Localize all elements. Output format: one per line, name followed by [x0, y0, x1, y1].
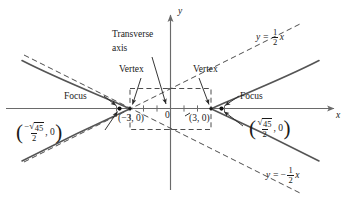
transverse-axis-label-line2: axis [112, 43, 127, 54]
leader-vertex-left [133, 78, 142, 105]
vertex-right-label: Vertex [193, 64, 218, 75]
asymptote-lower-fraction: 1 2 [287, 166, 293, 184]
focus-left-point [117, 107, 121, 111]
focus-left-open-paren: ( [16, 124, 23, 141]
asymptote-upper-variable: x [280, 32, 284, 43]
vertex-left-label: Vertex [119, 64, 144, 75]
hyperbola-left-branch [22, 61, 130, 162]
focus-right-point [219, 107, 223, 111]
focus-left-denominator: 2 [31, 133, 37, 143]
asymptote-lower-variable: x [295, 170, 299, 181]
focus-left-second-coordinate: , 0 [45, 127, 55, 138]
origin-label: 0 [165, 110, 170, 121]
asymptote-lower-equation: y = − 1 2 x [266, 166, 299, 184]
focus-right-open-paren: ( [249, 120, 256, 137]
leader-focus-left [104, 96, 116, 106]
axis-lines [6, 15, 334, 190]
focus-left-fraction: −√45 2 [24, 122, 45, 143]
x-axis-label: x [336, 110, 340, 121]
asymptote-lower-numerator: 1 [287, 166, 293, 175]
focus-right-numerator: √45 [257, 118, 273, 129]
leader-vertex-right [199, 78, 209, 105]
focus-left-close-paren: ) [55, 124, 62, 141]
focus-left-numerator: −√45 [24, 122, 45, 133]
focus-right-fraction: √45 2 [257, 118, 273, 139]
vertex-left-point [128, 107, 131, 110]
asymptote-lower-lhs: y = [266, 170, 279, 181]
asymptote-lower-denominator: 2 [287, 175, 293, 185]
asymptote-lower-sign: − [281, 170, 286, 181]
leader-focus-right [225, 96, 239, 106]
asymptote-upper-denominator: 2 [272, 37, 278, 47]
focus-right-coordinate: ( √45 2 , 0 ) [249, 118, 290, 139]
focus-right-second-coordinate: , 0 [273, 123, 283, 134]
leader-focus-right-coord [224, 112, 243, 127]
asymptote-upper-numerator: 1 [272, 28, 278, 37]
asymptote-upper-equation: y = 1 2 x [256, 28, 284, 46]
asymptote-upper-fraction: 1 2 [272, 28, 278, 46]
hyperbola-figure: y x 0 Transverse axis Vertex Vertex Focu… [0, 0, 350, 197]
focus-right-label: Focus [240, 91, 263, 102]
transverse-axis-label-line1: Transverse [112, 29, 153, 40]
focus-left-radical: √45 [29, 122, 43, 133]
hyperbola-right-branch [211, 61, 319, 162]
vertex-left-coordinate: (−3, 0) [118, 113, 144, 124]
vertex-right-point [209, 107, 212, 110]
focus-right-denominator: 2 [262, 129, 268, 139]
focus-left-label: Focus [64, 91, 87, 102]
vertex-right-coordinate: (3, 0) [189, 113, 210, 124]
focus-right-radical: √45 [258, 118, 272, 129]
asymptote-upper-lhs: y = [256, 32, 269, 43]
y-axis-label: y [178, 6, 182, 17]
focus-left-coordinate: ( −√45 2 , 0 ) [16, 122, 62, 143]
focus-right-close-paren: ) [283, 120, 290, 137]
